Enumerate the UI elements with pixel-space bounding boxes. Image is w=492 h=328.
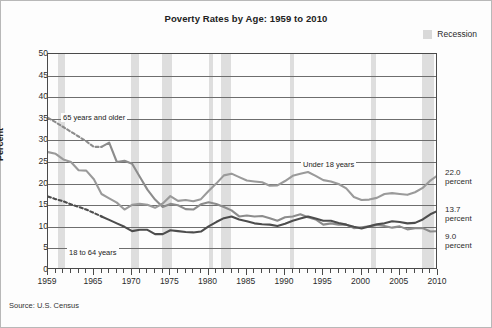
x-axis-tick [253, 269, 254, 273]
x-axis-tick [437, 269, 438, 275]
x-axis-tick [292, 269, 293, 273]
x-axis-tick [55, 269, 56, 273]
x-axis-tick [116, 269, 117, 273]
x-axis-tick [307, 269, 308, 273]
x-axis-tick-label: 1975 [160, 276, 179, 286]
annotation-65-and-older: 65 years and older [61, 113, 127, 122]
x-axis-tick [406, 269, 407, 273]
x-axis-tick [101, 269, 102, 273]
x-axis-tick [238, 269, 239, 273]
y-axis-tick-label: 0 [18, 264, 48, 274]
y-axis-tick-label: 30 [18, 134, 48, 144]
y-axis-tick-label: 5 [18, 242, 48, 252]
x-axis-tick [185, 269, 186, 273]
source-note: Source: U.S. Census [9, 301, 79, 310]
x-axis-tick [85, 269, 86, 273]
x-axis-tick [223, 269, 224, 273]
recession-swatch-icon [423, 30, 432, 39]
x-axis-tick [284, 269, 285, 275]
x-axis-tick [315, 269, 316, 273]
y-axis-title: Percent [0, 128, 5, 161]
x-axis-tick [345, 269, 346, 273]
x-axis-tick [338, 269, 339, 273]
x-axis-tick-label: 1990 [275, 276, 294, 286]
end-label-adults-unit: percent [445, 215, 472, 224]
end-label-older-unit: percent [445, 242, 472, 251]
x-axis-tick [169, 269, 170, 275]
end-label-under18-unit: percent [445, 178, 472, 187]
x-axis-tick [376, 269, 377, 273]
x-axis-tick [70, 269, 71, 273]
end-label-under18: 22.0 percent [445, 169, 472, 187]
y-axis-tick-label: 45 [18, 70, 48, 80]
legend-label-recession: Recession [437, 29, 477, 39]
chart-page: Poverty Rates by Age: 1959 to 2010 Reces… [0, 0, 492, 328]
x-axis-tick [368, 269, 369, 273]
x-axis-tick [429, 269, 430, 273]
x-axis-tick [422, 269, 423, 273]
series-lines [48, 54, 437, 269]
plot-area [47, 53, 437, 269]
series-line [102, 211, 437, 234]
annotation-18-to-64: 18 to 64 years [67, 248, 119, 257]
x-axis-tick [123, 269, 124, 273]
x-axis-tick [200, 269, 201, 273]
x-axis-tick-label: 2005 [389, 276, 408, 286]
x-axis-tick [261, 269, 262, 273]
y-axis-tick-label: 10 [18, 221, 48, 231]
x-axis-ticks [47, 269, 437, 275]
x-axis-tick [146, 269, 147, 273]
x-axis-tick [383, 269, 384, 273]
x-axis-tick [391, 269, 392, 273]
page-title: Poverty Rates by Age: 1959 to 2010 [1, 13, 491, 24]
y-axis-tick-label: 20 [18, 178, 48, 188]
y-axis-tick-label: 40 [18, 91, 48, 101]
x-axis-tick [208, 269, 209, 275]
x-axis-tick-label: 1965 [83, 276, 102, 286]
x-axis-tick-label: 1995 [313, 276, 332, 286]
x-axis-tick [414, 269, 415, 273]
x-axis-tick [93, 269, 94, 275]
x-axis-tick [47, 269, 48, 275]
x-axis-tick [131, 269, 132, 275]
end-label-adults: 13.7 percent [445, 206, 472, 224]
x-axis-tick [299, 269, 300, 273]
x-axis-tick [215, 269, 216, 273]
y-axis-tick-label: 15 [18, 199, 48, 209]
x-axis-tick [399, 269, 400, 275]
end-label-older: 9.0 percent [445, 233, 472, 251]
series-line [48, 152, 437, 209]
x-axis-tick [231, 269, 232, 273]
x-axis-tick [330, 269, 331, 273]
x-axis-tick [269, 269, 270, 273]
x-axis-tick [78, 269, 79, 273]
x-axis-tick-label: 2010 [428, 276, 447, 286]
series-line [102, 143, 437, 232]
y-axis-tick-label: 35 [18, 113, 48, 123]
x-axis-tick [276, 269, 277, 273]
y-axis-tick-label: 25 [18, 156, 48, 166]
x-axis-tick [62, 269, 63, 273]
x-axis-tick [361, 269, 362, 275]
annotation-under-18: Under 18 years [301, 160, 356, 169]
x-axis-tick [192, 269, 193, 273]
x-axis-tick [322, 269, 323, 275]
series-line [48, 197, 102, 217]
x-axis-tick [139, 269, 140, 273]
y-axis-tick-label: 50 [18, 48, 48, 58]
x-axis-tick-label: 1970 [122, 276, 141, 286]
x-axis-tick-label: 1959 [38, 276, 57, 286]
x-axis-tick [162, 269, 163, 273]
x-axis-tick-label: 1980 [198, 276, 217, 286]
series-line [48, 118, 102, 147]
legend: Recession [423, 29, 477, 39]
x-axis-tick [353, 269, 354, 273]
x-axis-tick [177, 269, 178, 273]
x-axis-tick [108, 269, 109, 273]
x-axis-tick-label: 2000 [351, 276, 370, 286]
x-axis-tick [246, 269, 247, 275]
x-axis-tick [154, 269, 155, 273]
x-axis-tick-label: 1985 [236, 276, 255, 286]
